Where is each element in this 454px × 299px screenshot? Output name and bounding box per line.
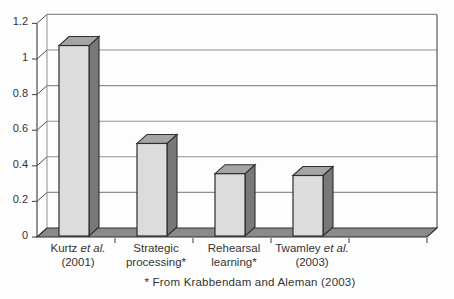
y-tick-label: 0.2 xyxy=(13,193,28,205)
y-tick-label: 1 xyxy=(22,51,28,63)
x-label-twamley-2003: Twamley et al. xyxy=(275,242,349,254)
x-label-strategic-processing: Strategic xyxy=(133,242,179,254)
y-tick-depth xyxy=(37,192,47,201)
footnote-text: * From Krabbendam and Aleman (2003) xyxy=(100,276,400,288)
y-tick-label: 0.4 xyxy=(13,158,28,170)
bar-side-strategic-processing xyxy=(167,134,177,236)
y-tick-depth xyxy=(37,50,47,59)
bar-kurtz-2001 xyxy=(59,46,89,236)
bar-twamley-2003 xyxy=(293,175,323,236)
bar-side-kurtz-2001 xyxy=(89,37,99,236)
bar-side-rehearsal-learning xyxy=(245,165,255,236)
x-label-line2-strategic-processing: processing* xyxy=(126,256,187,268)
y-tick-depth xyxy=(37,14,47,23)
y-tick-label: 0.6 xyxy=(13,122,28,134)
effect-size-figure: 00.20.40.60.811.2Kurtz et al.(2001)Strat… xyxy=(0,0,454,299)
x-label-line2-rehearsal-learning: learning* xyxy=(211,256,257,268)
y-tick-depth xyxy=(37,86,47,95)
y-tick-depth xyxy=(37,157,47,166)
y-tick-label: 0.8 xyxy=(13,87,28,99)
x-label-kurtz-2001: Kurtz et al. xyxy=(51,242,106,254)
y-tick-label: 1.2 xyxy=(13,15,28,27)
bar-rehearsal-learning xyxy=(215,174,245,236)
y-tick-label: 0 xyxy=(22,229,28,241)
bar-strategic-processing xyxy=(137,143,167,236)
bar-chart-3d: 00.20.40.60.811.2Kurtz et al.(2001)Strat… xyxy=(0,0,454,299)
x-label-line2-kurtz-2001: (2001) xyxy=(61,256,94,268)
y-tick-depth xyxy=(37,121,47,130)
bar-side-twamley-2003 xyxy=(323,166,333,236)
x-label-rehearsal-learning: Rehearsal xyxy=(208,242,260,254)
x-label-line2-twamley-2003: (2003) xyxy=(295,256,328,268)
